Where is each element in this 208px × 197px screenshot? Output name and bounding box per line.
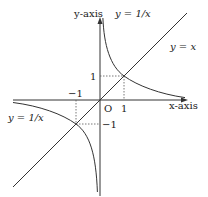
x-axis-label: x-axis [169,100,198,111]
tick-y-neg: −1 [102,119,117,130]
y-axis-label: y-axis [73,8,103,19]
origin-label: O [104,103,112,114]
function-graph: y-axis y = 1/x y = x 1 −1 O 1 x-axis y =… [0,0,208,197]
hyperbola-label-top: y = 1/x [114,8,151,19]
hyperbola-branch-positive [103,18,185,98]
line-label: y = x [169,41,196,52]
tick-x-neg: −1 [68,88,83,99]
hyperbola-label-left: y = 1/x [7,112,44,123]
tick-x-pos: 1 [121,103,127,114]
axes [13,20,185,196]
tick-y-pos: 1 [90,71,96,82]
